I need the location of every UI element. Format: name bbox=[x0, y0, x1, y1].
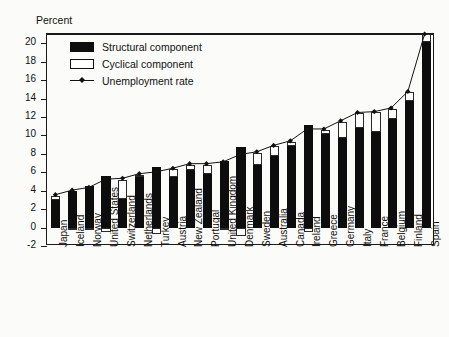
chart-figure: Percent -202468101214161820 JapanIceland… bbox=[0, 0, 449, 337]
y-tick bbox=[41, 209, 47, 210]
x-axis-label: Finland bbox=[413, 214, 424, 247]
y-tick bbox=[41, 62, 47, 63]
legend-item-structural: Structural component bbox=[70, 39, 202, 54]
y-tick-label: 10 bbox=[0, 128, 36, 139]
x-axis-category-labels: JapanIcelandNorwayUnited StatesSwitzerla… bbox=[46, 245, 434, 335]
y-tick-label: 16 bbox=[0, 73, 36, 84]
x-axis-label: Portugal bbox=[210, 210, 221, 247]
bar-segment-cyclical bbox=[203, 165, 212, 174]
y-tick bbox=[41, 117, 47, 118]
bar-segment-structural bbox=[422, 42, 431, 227]
y-tick-label: 8 bbox=[0, 147, 36, 158]
x-axis-label: Ireland bbox=[311, 216, 322, 247]
chart-legend: Structural componentCyclical componentUn… bbox=[70, 39, 202, 90]
x-axis-label: Turkey bbox=[160, 217, 171, 247]
bar-segment-cyclical bbox=[422, 34, 431, 42]
x-axis-label: United Kingdom bbox=[227, 176, 238, 247]
x-axis-label: New Zealand bbox=[193, 188, 204, 247]
bar-segment-cyclical bbox=[169, 169, 178, 176]
legend-swatch-structural-icon bbox=[70, 42, 94, 52]
x-axis-label: Germany bbox=[345, 206, 356, 247]
x-axis-label: Austria bbox=[177, 216, 188, 247]
x-axis-label: Italy bbox=[362, 229, 373, 247]
legend-label: Unemployment rate bbox=[102, 75, 194, 87]
x-axis-label: Norway bbox=[92, 213, 103, 247]
y-tick-label: 12 bbox=[0, 110, 36, 121]
bar-segment-cyclical bbox=[405, 92, 414, 101]
bar-segment-cyclical bbox=[270, 146, 279, 155]
bar-segment-cyclical bbox=[186, 165, 195, 171]
y-tick bbox=[41, 135, 47, 136]
bar-segment-cyclical bbox=[287, 142, 296, 147]
x-axis-label: Netherlands bbox=[143, 193, 154, 247]
legend-item-cyclical: Cyclical component bbox=[70, 56, 202, 71]
x-axis-label: Spain bbox=[430, 221, 441, 247]
bar-segment-cyclical bbox=[135, 175, 144, 177]
y-tick-label: 2 bbox=[0, 202, 36, 213]
y-axis-title: Percent bbox=[36, 14, 72, 26]
x-axis-label: Sweden bbox=[261, 211, 272, 247]
legend-label: Cyclical component bbox=[102, 58, 193, 70]
bar-group bbox=[51, 34, 60, 246]
x-axis-label: Switzerland bbox=[126, 195, 137, 247]
x-axis-label: Japan bbox=[58, 220, 69, 247]
y-tick-label: 20 bbox=[0, 36, 36, 47]
legend-swatch-rate-icon bbox=[70, 76, 94, 86]
x-axis-label: Greece bbox=[328, 214, 339, 247]
legend-swatch-cyclical-icon bbox=[70, 59, 94, 69]
x-axis-label: Denmark bbox=[244, 206, 255, 247]
y-tick-label: 6 bbox=[0, 165, 36, 176]
legend-item-rate: Unemployment rate bbox=[70, 73, 202, 88]
y-tick-label: -2 bbox=[0, 239, 36, 250]
x-axis-label: United States bbox=[109, 187, 120, 247]
y-tick bbox=[41, 99, 47, 100]
x-axis-label: France bbox=[379, 216, 390, 247]
bar-segment-cyclical bbox=[51, 196, 60, 200]
legend-label: Structural component bbox=[102, 41, 202, 53]
x-axis-label: Iceland bbox=[75, 215, 86, 247]
y-tick bbox=[41, 43, 47, 44]
bar-segment-structural bbox=[371, 132, 380, 228]
y-tick bbox=[41, 80, 47, 81]
y-tick bbox=[41, 154, 47, 155]
bar-group bbox=[371, 34, 380, 246]
bar-segment-cyclical bbox=[355, 113, 364, 128]
bar-segment-cyclical bbox=[371, 112, 380, 131]
bar-segment-cyclical bbox=[388, 109, 397, 119]
y-tick-label: 0 bbox=[0, 221, 36, 232]
x-axis-label: Canada bbox=[295, 212, 306, 247]
y-tick-label: 14 bbox=[0, 92, 36, 103]
y-tick bbox=[41, 228, 47, 229]
y-tick bbox=[41, 191, 47, 192]
x-axis-label: Belgium bbox=[396, 211, 407, 247]
bar-segment-structural bbox=[405, 101, 414, 227]
x-axis-label: Australia bbox=[278, 208, 289, 247]
y-tick bbox=[41, 172, 47, 173]
y-tick-label: 4 bbox=[0, 184, 36, 195]
y-tick-label: 18 bbox=[0, 55, 36, 66]
bar-segment-cyclical bbox=[321, 130, 330, 135]
bar-segment-cyclical bbox=[253, 153, 262, 165]
bar-segment-cyclical bbox=[338, 122, 347, 139]
